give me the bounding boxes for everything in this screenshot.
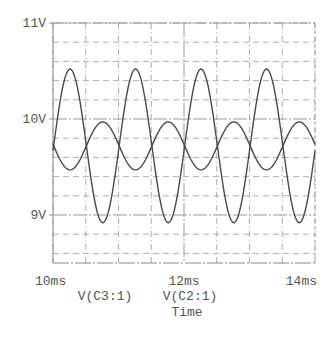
x-tick-label: 12ms <box>168 274 199 289</box>
x-tick-label: 10ms <box>35 274 66 289</box>
legend-series-2: V(C2:1) <box>163 289 218 304</box>
y-tick-label: 10V <box>23 112 47 127</box>
y-tick-label: 11V <box>23 16 47 31</box>
x-tick-label: 14ms <box>286 274 317 289</box>
x-axis-label: Time <box>171 305 202 320</box>
legend-series-1: V(C3:1) <box>78 289 133 304</box>
y-tick-label: 9V <box>30 208 46 223</box>
transient-voltage-chart: 11V10V9V 10ms12ms14ms V(C3:1) V(C2:1) Ti… <box>0 0 333 338</box>
